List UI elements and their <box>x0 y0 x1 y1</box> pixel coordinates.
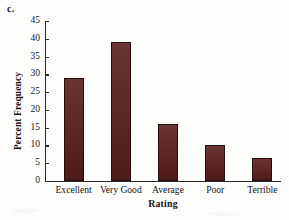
x-tick-label: Terrible <box>247 185 277 195</box>
y-tick-mark <box>45 181 50 182</box>
scan-artifact <box>205 212 239 216</box>
scan-artifact <box>12 208 38 213</box>
y-tick-label: 5 <box>35 158 40 168</box>
x-tick-label: Very Good <box>100 185 142 195</box>
y-tick-label: 20 <box>31 105 41 115</box>
y-tick-label: 40 <box>31 34 41 44</box>
x-tick-label: Poor <box>206 185 224 195</box>
bar <box>111 42 131 181</box>
y-axis-title: Percent Frequency <box>13 41 23 181</box>
y-tick-mark <box>45 39 50 40</box>
y-tick-label: 25 <box>31 87 41 97</box>
y-tick-mark <box>45 92 50 93</box>
bar-chart-figure: c. Percent Frequency 051015202530354045 … <box>0 0 289 220</box>
y-tick-mark <box>45 145 50 146</box>
y-tick-mark <box>45 74 50 75</box>
bar <box>205 145 225 181</box>
y-tick-mark <box>45 128 50 129</box>
y-tick-label: 35 <box>31 52 41 62</box>
x-tick-label: Excellent <box>55 185 91 195</box>
y-tick-label: 45 <box>31 16 41 26</box>
x-axis-line <box>45 181 281 182</box>
y-tick-label: 30 <box>31 70 41 80</box>
y-tick-mark <box>45 21 50 22</box>
plot-area: 051015202530354045 ExcellentVery GoodAve… <box>45 21 281 182</box>
y-tick-label: 10 <box>31 141 41 151</box>
panel-letter: c. <box>7 3 14 14</box>
y-tick-mark <box>45 110 50 111</box>
y-tick-label: 15 <box>31 123 41 133</box>
bar <box>64 78 84 181</box>
bar <box>158 124 178 181</box>
y-tick-label: 0 <box>35 176 40 186</box>
y-axis-line <box>45 21 46 182</box>
bar <box>252 158 272 181</box>
y-tick-mark <box>45 163 50 164</box>
x-tick-label: Average <box>152 185 184 195</box>
y-tick-mark <box>45 57 50 58</box>
x-axis-title: Rating <box>45 198 281 209</box>
